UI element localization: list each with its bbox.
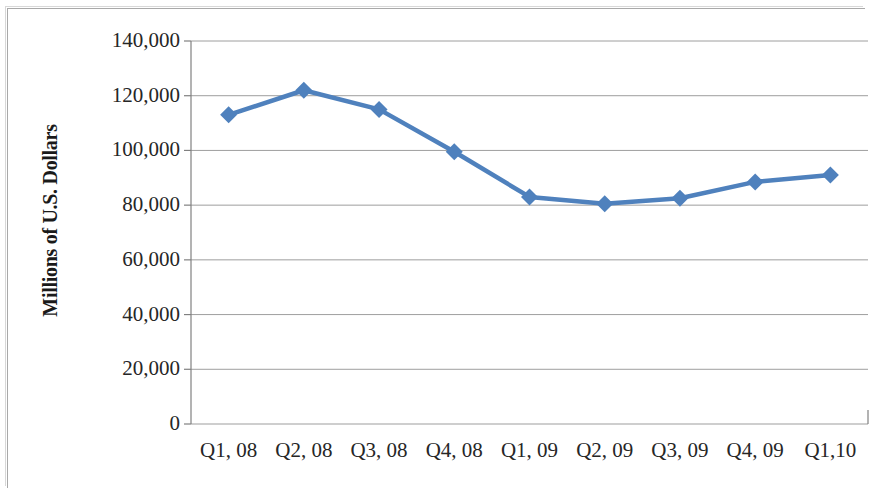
y-axis-tick-labels: 020,00040,00060,00080,000100,000120,0001… bbox=[80, 0, 188, 500]
x-axis-tick-label: Q1, 08 bbox=[191, 440, 266, 461]
series-line bbox=[229, 90, 831, 204]
data-point-marker bbox=[371, 101, 388, 118]
x-axis-tick-label: Q1,10 bbox=[793, 440, 868, 461]
series-markers bbox=[220, 82, 839, 213]
x-axis-tick-label: Q4, 09 bbox=[718, 440, 793, 461]
y-axis-tick-label: 140,000 bbox=[112, 30, 180, 51]
y-axis-tick-label: 60,000 bbox=[122, 249, 180, 270]
plot-svg bbox=[191, 41, 868, 424]
y-axis-tick-label: 80,000 bbox=[122, 194, 180, 215]
x-axis-tick-label: Q2, 08 bbox=[266, 440, 341, 461]
data-point-marker bbox=[671, 190, 688, 207]
gridlines bbox=[191, 41, 868, 424]
axis-lines bbox=[191, 41, 868, 424]
data-point-marker bbox=[822, 167, 839, 184]
y-axis-tick-label: 0 bbox=[170, 413, 181, 434]
y-axis-tick-label: 20,000 bbox=[122, 358, 180, 379]
chart-container: Millions of U.S. Dollars 020,00040,00060… bbox=[0, 0, 872, 500]
y-axis-title-label: Millions of U.S. Dollars bbox=[39, 124, 62, 316]
x-axis-tick-label: Q3, 08 bbox=[341, 440, 416, 461]
y-axis-tick-label: 120,000 bbox=[112, 85, 180, 106]
x-axis-tick-label: Q3, 09 bbox=[642, 440, 717, 461]
x-axis-tick-label: Q1, 09 bbox=[492, 440, 567, 461]
x-axis-tick-label: Q4, 08 bbox=[417, 440, 492, 461]
plot-area bbox=[191, 41, 868, 424]
x-axis-tick-labels: Q1, 08Q2, 08Q3, 08Q4, 08Q1, 09Q2, 09Q3, … bbox=[191, 440, 872, 480]
y-axis-tick-label: 100,000 bbox=[112, 139, 180, 160]
data-point-marker bbox=[596, 195, 613, 212]
data-point-marker bbox=[747, 173, 764, 190]
data-point-marker bbox=[220, 106, 237, 123]
y-axis-tick-label: 40,000 bbox=[122, 304, 180, 325]
x-axis-tick-label: Q2, 09 bbox=[567, 440, 642, 461]
